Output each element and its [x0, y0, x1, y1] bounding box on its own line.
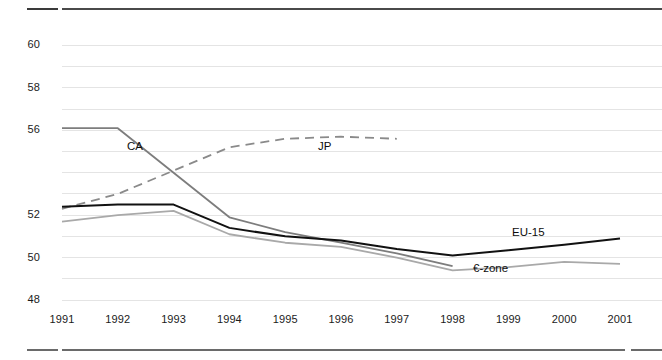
x-tick-label-1992: 1992	[95, 313, 141, 325]
y-tick-label-56: 56	[14, 123, 40, 135]
x-tick-label-2001: 2001	[597, 313, 643, 325]
top-rule-left-segment	[27, 8, 58, 10]
y-tick-label-50: 50	[14, 251, 40, 263]
y-tick-label-52: 52	[14, 208, 40, 220]
y-tick-label-48: 48	[14, 293, 40, 305]
x-tick-label-1995: 1995	[262, 313, 308, 325]
x-tick-label-2000: 2000	[541, 313, 587, 325]
line-chart-svg	[45, 20, 662, 305]
top-rule-main	[62, 8, 662, 10]
bottom-rule-left-segment	[27, 349, 58, 351]
x-tick-label-1996: 1996	[318, 313, 364, 325]
chart-container: 485052565860 199119921993199419951996199…	[0, 0, 662, 360]
y-tick-label-60: 60	[14, 38, 40, 50]
series-label-eu-15: EU-15	[512, 226, 545, 238]
plot-area	[45, 20, 662, 305]
x-tick-label-1998: 1998	[430, 313, 476, 325]
bottom-rule-right-segment	[631, 349, 662, 351]
bottom-rule-main	[62, 349, 625, 351]
x-tick-label-1994: 1994	[206, 313, 252, 325]
series-label--zone: €-zone	[473, 262, 508, 274]
x-tick-label-1999: 1999	[485, 313, 531, 325]
x-tick-label-1993: 1993	[151, 313, 197, 325]
series-line-ca	[62, 128, 453, 266]
x-tick-label-1991: 1991	[39, 313, 85, 325]
y-tick-label-58: 58	[14, 81, 40, 93]
series-label-ca: CA	[127, 140, 143, 152]
x-tick-label-1997: 1997	[374, 313, 420, 325]
series-label-jp: JP	[318, 140, 331, 152]
series-lines-group	[62, 128, 620, 270]
